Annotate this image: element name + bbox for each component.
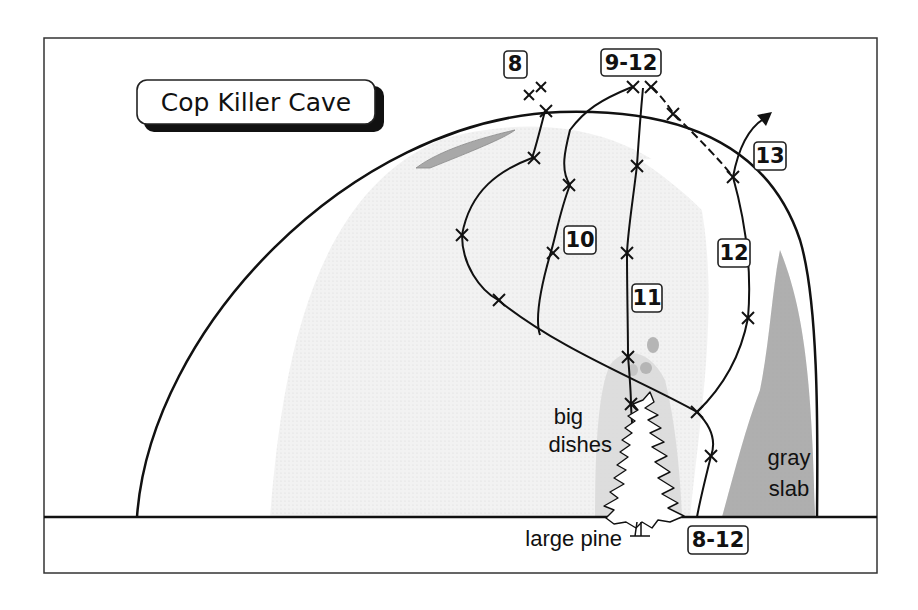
svg-text:8-12: 8-12 [692,528,745,552]
page-title: Cop Killer Cave [161,88,351,117]
svg-text:11: 11 [632,286,661,310]
route-label-8-12-start: 8-12 [688,526,748,554]
route-label-10: 10 [564,226,596,254]
route-label-11: 11 [632,284,662,312]
svg-text:13: 13 [755,144,784,168]
svg-text:8: 8 [508,52,523,76]
dish [640,362,652,374]
topo-diagram: Cop Killer Cave 8 9-12 13 10 11 12 8-12 … [0,0,918,610]
dish [647,337,659,353]
route-label-12: 12 [718,239,750,267]
route-label-13: 13 [754,142,786,170]
gray-slab-label-line1: gray [768,445,811,470]
route-label-9-12: 9-12 [601,49,661,76]
big-dishes-label-line2: dishes [548,432,612,457]
large-pine-label: large pine [525,526,622,551]
gray-slab-label-line2: slab [769,476,809,501]
title-box: Cop Killer Cave [137,80,384,132]
svg-text:12: 12 [719,241,748,265]
route-label-8: 8 [504,51,527,78]
svg-text:9-12: 9-12 [605,51,658,75]
big-dishes-label-line1: big [554,404,583,429]
svg-text:10: 10 [565,228,594,252]
